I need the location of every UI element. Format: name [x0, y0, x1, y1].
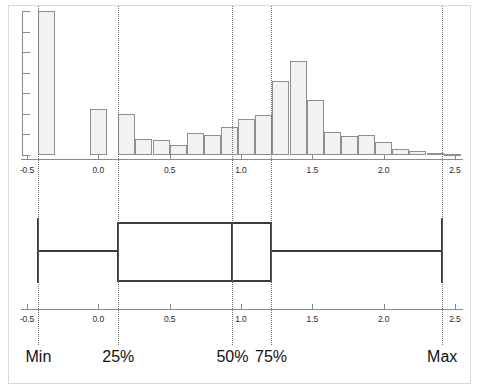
guide-line-max [442, 6, 443, 345]
quantile-label-max: Max [427, 348, 457, 366]
figure-canvas: -0.50.00.51.01.52.02.5 -0.50.00.51.01.52… [0, 0, 480, 392]
guide-line-min [38, 6, 39, 345]
quantile-guide-lines [0, 0, 480, 392]
guide-line-q3 [271, 6, 272, 345]
quantile-label-q1: 25% [102, 348, 134, 366]
quantile-label-med: 50% [216, 348, 248, 366]
quantile-label-row: Min25%50%75%Max [0, 348, 480, 378]
guide-line-med [232, 6, 233, 345]
guide-line-q1 [118, 6, 119, 345]
quantile-label-q3: 75% [255, 348, 287, 366]
quantile-label-min: Min [26, 348, 52, 366]
